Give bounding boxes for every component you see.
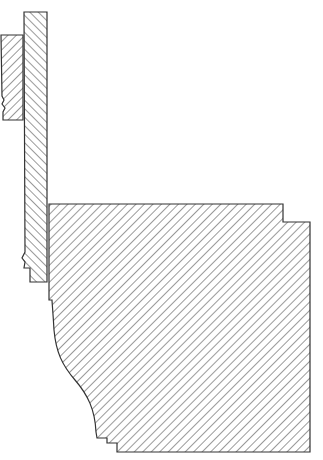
main-molding [49,204,310,452]
left-block [1,35,23,120]
vertical-strip [22,12,47,282]
section-drawing [0,0,323,460]
